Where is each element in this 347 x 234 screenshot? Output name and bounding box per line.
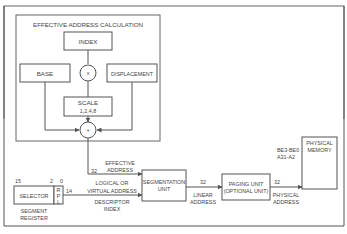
- address-signals: A31-A2: [277, 154, 295, 160]
- base-label: BASE: [37, 70, 54, 77]
- rpl-l: L: [57, 199, 60, 205]
- segment-register-label-2: REGISTER: [20, 215, 48, 221]
- bit-15: 15: [15, 178, 21, 184]
- scale-values: 1,2,4,8: [80, 108, 97, 114]
- linear-width: 32: [200, 179, 206, 185]
- linear-address-label-1: LINEAR: [193, 192, 213, 198]
- descriptor-index-label-2: INDEX: [104, 206, 121, 212]
- effective-address-label-1: EFFECTIVE: [105, 160, 135, 166]
- linear-address-label-2: ADDRESS: [190, 199, 216, 205]
- physical-memory-label-1: PHYSICAL: [306, 140, 333, 146]
- segmentation-unit-label-2: UNIT: [158, 186, 171, 192]
- physical-address-label-2: ADDRESS: [273, 199, 299, 205]
- logical-address-label-2: VIRTUAL ADDRESS: [87, 188, 137, 194]
- scale-label: SCALE: [78, 99, 98, 106]
- byte-enable-signals: BE3-BE0: [277, 147, 299, 153]
- paging-unit-box: [222, 174, 270, 200]
- physical-address-label-1: PHYSICAL: [273, 192, 300, 198]
- physical-memory-label-2: MEMORY: [307, 147, 332, 153]
- multiply-symbol: x: [87, 70, 90, 76]
- bit-0: 0: [60, 178, 63, 184]
- index-label: INDEX: [79, 38, 98, 45]
- segment-register-label-1: SEGMENT: [21, 208, 48, 214]
- bit-2: 2: [50, 178, 53, 184]
- paging-unit-label-1: PAGING UNIT: [229, 181, 264, 187]
- selector-width: 14: [66, 188, 72, 194]
- selector-label: SELECTOR: [20, 193, 49, 199]
- segmentation-unit-label-1: SEGMENTATION: [143, 179, 185, 185]
- ea-title: EFFECTIVE ADDRESS CALCULATION: [33, 21, 143, 28]
- descriptor-index-label-1: DESCRIPTOR: [94, 199, 129, 205]
- displacement-label: DISPLACEMENT: [111, 71, 154, 77]
- address-translation-diagram: EFFECTIVE ADDRESS CALCULATION INDEX BASE…: [0, 0, 347, 234]
- add-symbol: +: [86, 127, 89, 133]
- effective-width: 32: [91, 168, 97, 174]
- logical-address-label-1: LOGICAL OR: [96, 180, 129, 186]
- effective-address-label-2: ADDRESS: [107, 167, 133, 173]
- physical-width: 32: [274, 179, 280, 185]
- paging-unit-label-2: (OPTIONAL UNIT): [224, 188, 269, 194]
